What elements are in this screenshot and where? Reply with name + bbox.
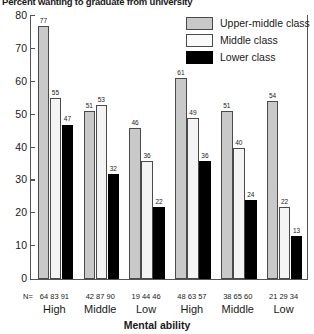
legend-item-middle-class: Middle class bbox=[186, 33, 310, 47]
bar-value-label: 36 bbox=[137, 152, 157, 159]
legend-item-upper-middle-class: Upper-middle class bbox=[186, 16, 310, 30]
y-axis-tick-mark bbox=[30, 15, 35, 16]
legend-label-lower-class: Lower class bbox=[220, 51, 275, 63]
legend-swatch-middle-class bbox=[186, 34, 213, 47]
n-prefix-label: N= bbox=[23, 292, 33, 301]
group-n-values: 21 29 34 bbox=[269, 292, 298, 301]
legend-label-upper-middle-class: Upper-middle class bbox=[220, 17, 310, 29]
bar-value-label: 13 bbox=[287, 227, 307, 234]
bar bbox=[187, 118, 199, 279]
bar-value-label: 53 bbox=[91, 96, 111, 103]
bar bbox=[245, 200, 257, 279]
bar bbox=[50, 98, 62, 279]
y-axis-tick-label: 20 bbox=[0, 206, 27, 218]
bar-value-label: 49 bbox=[183, 109, 203, 116]
bar bbox=[141, 161, 153, 279]
y-axis-tick-mark bbox=[30, 81, 35, 82]
bar bbox=[153, 207, 165, 279]
y-axis-tick-mark bbox=[30, 179, 35, 180]
bar bbox=[199, 161, 211, 279]
group-n-values: 48 63 57 bbox=[177, 292, 206, 301]
bar-value-label: 51 bbox=[217, 102, 237, 109]
x-axis-group-label: Low bbox=[273, 303, 293, 315]
bar-value-label: 36 bbox=[195, 152, 215, 159]
y-axis-tick-label: 0 bbox=[0, 272, 27, 284]
x-axis-group-label: Low bbox=[136, 303, 156, 315]
bar-value-label: 46 bbox=[125, 119, 145, 126]
legend-swatch-lower-class bbox=[186, 51, 213, 64]
bar bbox=[279, 207, 291, 279]
bar bbox=[38, 26, 50, 279]
bar bbox=[96, 105, 108, 279]
group-n-values: 42 87 90 bbox=[86, 292, 115, 301]
y-axis-tick-mark bbox=[30, 48, 35, 49]
bar-value-label: 47 bbox=[57, 115, 77, 122]
chart-legend: Upper-middle class Middle class Lower cl… bbox=[186, 16, 310, 67]
bar-value-label: 55 bbox=[45, 89, 65, 96]
legend-swatch-upper-middle-class bbox=[186, 17, 213, 30]
x-axis-group-label: High bbox=[181, 303, 204, 315]
y-axis-tick-mark bbox=[30, 212, 35, 213]
bar bbox=[108, 174, 120, 279]
bar bbox=[221, 111, 233, 279]
bar bbox=[84, 111, 96, 279]
y-axis-tick-mark bbox=[30, 245, 35, 246]
bar-value-label: 61 bbox=[171, 69, 191, 76]
bar bbox=[129, 128, 141, 279]
x-axis-group-label: High bbox=[43, 303, 66, 315]
y-axis-tick-mark bbox=[30, 147, 35, 148]
x-axis-group-label: Middle bbox=[84, 303, 116, 315]
y-axis-tick-mark bbox=[30, 114, 35, 115]
y-axis-tick-label: 40 bbox=[0, 141, 27, 153]
group-n-values: 64 83 91 bbox=[40, 292, 69, 301]
x-axis-title: Mental ability bbox=[0, 319, 314, 331]
bar-value-label: 54 bbox=[263, 92, 283, 99]
bar-value-label: 22 bbox=[149, 198, 169, 205]
bar bbox=[291, 236, 303, 279]
y-axis-tick-label: 10 bbox=[0, 239, 27, 251]
bar-value-label: 77 bbox=[33, 17, 53, 24]
y-axis-tick-label: 30 bbox=[0, 173, 27, 185]
bar-value-label: 40 bbox=[229, 139, 249, 146]
bar bbox=[267, 101, 279, 279]
chart-title: Percent wanting to graduate from univers… bbox=[2, 0, 312, 7]
group-n-values: 19 44 46 bbox=[131, 292, 160, 301]
y-axis-tick-label: 60 bbox=[0, 75, 27, 87]
group-n-values: 38 65 60 bbox=[223, 292, 252, 301]
legend-item-lower-class: Lower class bbox=[186, 50, 310, 64]
bar-chart: Percent wanting to graduate from univers… bbox=[0, 0, 314, 334]
y-axis-tick-label: 70 bbox=[0, 42, 27, 54]
bar-value-label: 32 bbox=[103, 165, 123, 172]
bar bbox=[233, 148, 245, 280]
bar-value-label: 22 bbox=[275, 198, 295, 205]
bar-value-label: 24 bbox=[241, 191, 261, 198]
x-axis-group-label: Middle bbox=[222, 303, 254, 315]
legend-label-middle-class: Middle class bbox=[220, 34, 278, 46]
y-axis-tick-label: 50 bbox=[0, 108, 27, 120]
bar bbox=[62, 125, 74, 280]
y-axis-tick-label: 80 bbox=[0, 9, 27, 21]
